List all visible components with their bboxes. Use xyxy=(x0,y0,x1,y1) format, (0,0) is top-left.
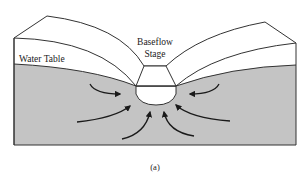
baseflow-stage-label-line2: Stage xyxy=(144,49,165,59)
channel-bowl xyxy=(136,86,176,105)
baseflow-stage-label-line1: Baseflow xyxy=(137,37,173,47)
figure-caption: (a) xyxy=(150,162,160,172)
baseflow-stage-channel xyxy=(136,66,176,86)
water-table-label: Water Table xyxy=(19,54,65,64)
baseflow-diagram: Water Table Baseflow Stage (a) xyxy=(0,0,306,195)
